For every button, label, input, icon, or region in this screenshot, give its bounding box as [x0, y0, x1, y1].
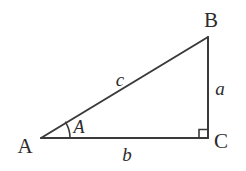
right-angle-marker-icon: [199, 130, 208, 139]
vertex-label-c: C: [214, 131, 228, 152]
angle-a-arc-icon: [66, 122, 70, 138]
side-label-a: a: [215, 79, 225, 98]
vertex-label-a: A: [17, 136, 32, 157]
side-label-c: c: [116, 70, 124, 89]
angle-label-a: A: [74, 118, 85, 136]
vertex-label-b: B: [204, 10, 218, 31]
side-label-b: b: [122, 145, 132, 164]
right-triangle-figure: A B C a b c A: [0, 0, 246, 171]
